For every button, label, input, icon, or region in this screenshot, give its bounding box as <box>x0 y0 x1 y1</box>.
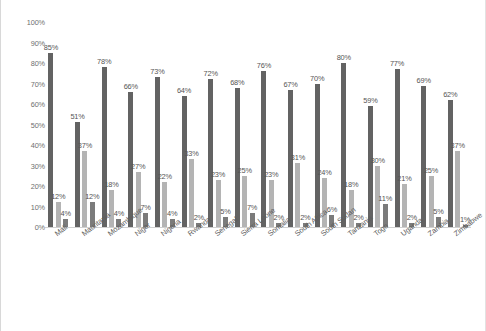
y-axis-tick-label: 90% <box>5 38 45 47</box>
y-axis-tick-label: 30% <box>5 161 45 170</box>
x-axis-category-label: Mauritania <box>80 210 112 238</box>
x-axis-category-label: Togo <box>372 221 390 238</box>
x-axis-category-label: Mali <box>53 223 69 238</box>
x-axis-category-label: Rwanda <box>186 215 212 238</box>
x-axis-category-label: Niger <box>133 220 152 238</box>
x-axis-category-label: Senegal <box>213 215 239 238</box>
x-axis-category-label: Zambia <box>426 216 450 238</box>
y-axis-tick-label: 20% <box>5 182 45 191</box>
x-axis-category-label: Zimbabwe <box>452 211 484 239</box>
y-axis-tick-label: 50% <box>5 120 45 129</box>
y-axis-tick-label: 60% <box>5 100 45 109</box>
x-axis-category-label: Somalia <box>266 215 292 238</box>
y-axis: 100%90%80%70%60%50%40%30%20%10%0% <box>1 0 45 331</box>
chart-container: 100%90%80%70%60%50%40%30%20%10%0% 85%12%… <box>0 0 486 331</box>
y-axis-tick-label: 70% <box>5 79 45 88</box>
y-axis-tick-label: 80% <box>5 59 45 68</box>
y-axis-tick-label: 0% <box>5 223 45 232</box>
x-axis-category-label: Nigeria <box>159 217 182 238</box>
y-axis-tick-label: 40% <box>5 141 45 150</box>
x-axis-category-label: Uganda <box>399 215 424 238</box>
y-axis-tick-label: 10% <box>5 202 45 211</box>
x-axis-labels: MaliMauritaniaMozambiqueNigerNigeriaRwan… <box>45 0 471 331</box>
y-axis-tick-label: 100% <box>5 18 45 27</box>
